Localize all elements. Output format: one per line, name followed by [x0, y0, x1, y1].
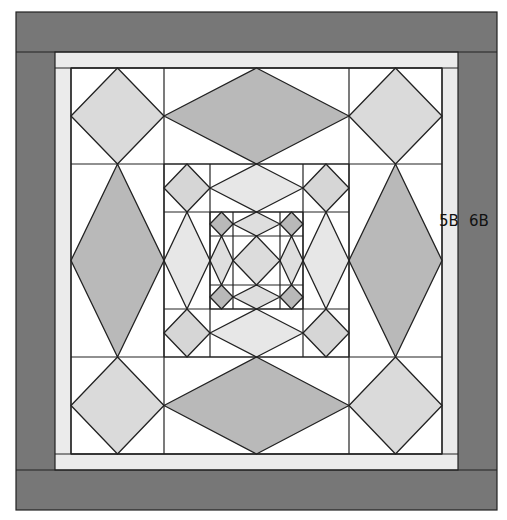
- quilt-patches: [71, 68, 442, 454]
- label-5b: 5B: [439, 214, 459, 229]
- quilt-svg: [0, 0, 507, 520]
- label-6b: 6B: [469, 214, 489, 229]
